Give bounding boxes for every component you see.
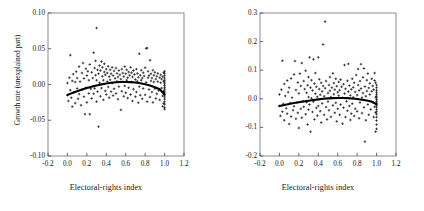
- y-tick-label: 0.00: [32, 81, 45, 89]
- x-tick-label: -0.2: [254, 160, 265, 168]
- plot-frame: [260, 13, 396, 156]
- x-tick-label: 1.0: [160, 160, 169, 168]
- plot-frame: [48, 13, 184, 156]
- x-tick-label: 1.0: [372, 160, 381, 168]
- y-tick-label: -0.10: [30, 152, 45, 160]
- y-tick-label: -0.2: [246, 152, 257, 160]
- chart-panel-growth-rate: Growth rate (unexplained part) Electoral…: [0, 0, 212, 211]
- y-axis-title-growth: Growth rate (unexplained part): [11, 5, 25, 155]
- x-axis-title-growth: Electoral-rights index: [0, 183, 212, 192]
- x-tick-label: 0.0: [275, 160, 284, 168]
- y-tick-label: -0.1: [246, 123, 257, 131]
- growth-rate-plot: [0, 0, 212, 211]
- x-tick-label: 0.8: [353, 160, 362, 168]
- x-tick-label: 0.0: [63, 160, 72, 168]
- y-tick-label: 0.0: [248, 95, 257, 103]
- y-tick-label: -0.05: [30, 116, 45, 124]
- figure-container: Growth rate (unexplained part) Electoral…: [0, 0, 424, 211]
- y-tick-label: 0.10: [32, 9, 45, 17]
- y-tick-label: 0.05: [32, 45, 45, 53]
- x-tick-label: 1.2: [180, 160, 189, 168]
- x-tick-label: 0.6: [121, 160, 130, 168]
- x-tick-label: 0.6: [333, 160, 342, 168]
- y-tick-label: 0.3: [248, 9, 257, 17]
- x-tick-label: 1.2: [392, 160, 401, 168]
- x-tick-label: 0.4: [314, 160, 323, 168]
- x-tick-label: 0.4: [102, 160, 111, 168]
- x-tick-label: 0.2: [294, 160, 303, 168]
- y-tick-label: 0.2: [248, 38, 257, 46]
- x-axis-title-investment: Electoral-rights index: [212, 183, 424, 192]
- x-tick-label: 0.8: [141, 160, 150, 168]
- investment-ratio-plot: [212, 0, 424, 211]
- x-tick-label: 0.2: [82, 160, 91, 168]
- x-tick-label: -0.2: [42, 160, 53, 168]
- chart-panel-investment-ratio: Investment ratio (unexplained part) Elec…: [212, 0, 424, 211]
- y-tick-label: 0.1: [248, 66, 257, 74]
